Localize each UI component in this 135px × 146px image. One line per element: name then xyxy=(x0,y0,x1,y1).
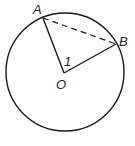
label-b: B xyxy=(119,34,128,49)
angle-label: 1 xyxy=(64,54,71,69)
label-a: A xyxy=(32,2,42,17)
label-o: O xyxy=(56,77,66,92)
chord-ab xyxy=(43,18,116,44)
circle-diagram: A B O 1 xyxy=(0,0,135,146)
radius-oa xyxy=(43,18,64,73)
radius-ob xyxy=(64,44,116,73)
